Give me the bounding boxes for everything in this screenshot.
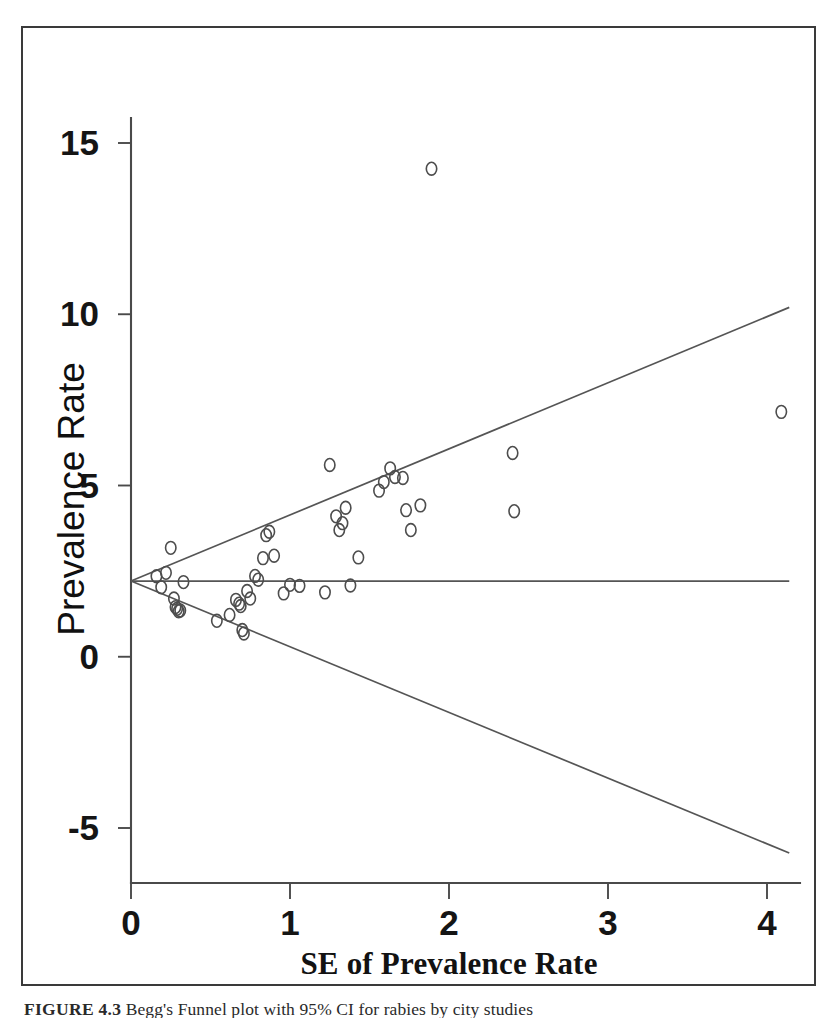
y-axis-tick-label: 15: [0, 125, 99, 160]
x-axis-tick-label: 0: [91, 905, 171, 940]
figure-caption: FIGURE 4.3 Begg's Funnel plot with 95% C…: [24, 999, 824, 1018]
figure-root: -5051015 01234 Prevalence Rate SE of Pre…: [0, 0, 840, 1018]
x-axis-title: SE of Prevalence Rate: [131, 946, 767, 982]
x-axis-tick-label: 1: [250, 905, 330, 940]
figure-caption-label: FIGURE 4.3: [24, 999, 121, 1018]
y-axis-tick-label: -5: [0, 810, 99, 845]
figure-border: [21, 26, 816, 986]
figure-caption-text: Begg's Funnel plot with 95% CI for rabie…: [126, 999, 533, 1018]
x-axis-tick-label: 4: [727, 905, 807, 940]
x-axis-tick-label: 2: [409, 905, 489, 940]
y-axis-title: Prevalence Rate: [51, 219, 93, 779]
x-axis-tick-label: 3: [568, 905, 648, 940]
